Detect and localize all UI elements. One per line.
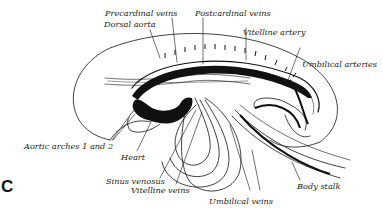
label-aortic-arches: Aortic arches 1 and 2 <box>24 142 113 150</box>
label-dorsal-aorta: Dorsal aorta <box>104 20 156 28</box>
label-umbilical-arteries: Umbilical arteries <box>302 60 377 68</box>
label-postcardinal-veins: Postcardinal veins <box>195 9 271 17</box>
label-vitelline-veins: Vitelline veins <box>131 186 190 194</box>
label-vitelline-artery: Vitelline artery <box>243 28 306 36</box>
cut-off-caption-text: — — — — — — <box>195 207 383 212</box>
label-body-stalk: Body stalk <box>297 182 340 190</box>
panel-letter: C <box>1 178 13 195</box>
label-sinus-venosus: Sinus venosus <box>106 177 165 185</box>
label-heart: Heart <box>121 153 145 161</box>
label-precardinal-veins: Precardinal veins <box>105 9 177 17</box>
figure-panel-c: Precardinal veins Postcardinal veins Dor… <box>0 0 383 212</box>
label-umbilical-veins: Umbilical veins <box>209 197 273 205</box>
